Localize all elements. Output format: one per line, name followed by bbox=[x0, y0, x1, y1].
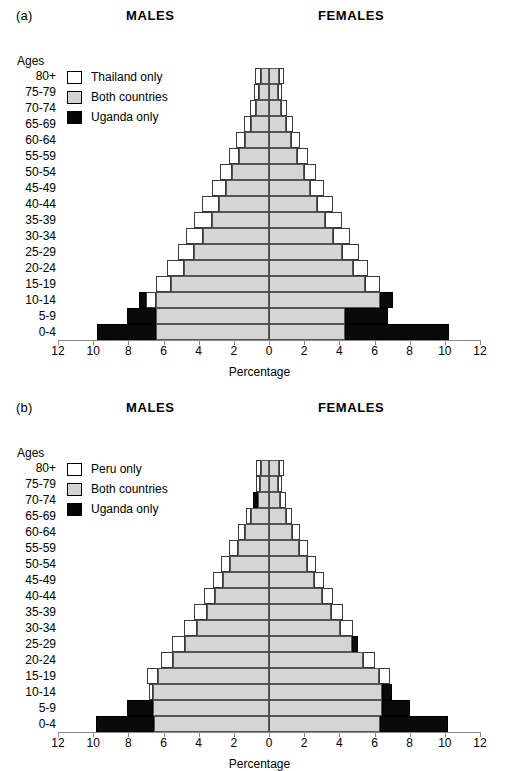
bar-female-both-countries bbox=[269, 148, 297, 164]
age-label: 45-49 bbox=[0, 180, 64, 196]
bar-male-country-only bbox=[244, 116, 251, 132]
age-label: 65-69 bbox=[0, 116, 64, 132]
age-label: 50-54 bbox=[0, 164, 64, 180]
bar-female-both-countries bbox=[269, 100, 281, 116]
bar-female-both-countries bbox=[269, 244, 342, 260]
bar-female-country-only bbox=[292, 524, 300, 540]
bar-female-uganda-only bbox=[380, 716, 449, 732]
bar-male-country-only bbox=[186, 228, 203, 244]
bar-female-both-countries bbox=[269, 460, 279, 476]
panel-b-tick-labels: 12108642024681012 bbox=[58, 736, 480, 752]
age-label: 60-64 bbox=[0, 132, 64, 148]
bar-male-both-countries bbox=[230, 556, 269, 572]
age-label: 5-9 bbox=[0, 700, 64, 716]
bar-female-country-only bbox=[280, 492, 285, 508]
bar-female-both-countries bbox=[269, 476, 278, 492]
bar-male-uganda-only bbox=[97, 324, 156, 340]
x-tick-label: 10 bbox=[438, 736, 451, 750]
panel-a-age-labels: 80+75-7970-7465-6960-6455-5950-5445-4940… bbox=[0, 68, 64, 340]
bar-female-country-only bbox=[307, 556, 317, 572]
x-tick-label: 8 bbox=[125, 736, 132, 750]
bar-female-country-only bbox=[286, 116, 293, 132]
bar-male-both-countries bbox=[256, 100, 269, 116]
bar-female-both-countries bbox=[269, 620, 340, 636]
bar-female-country-only bbox=[342, 244, 359, 260]
bar-male-both-countries bbox=[203, 228, 269, 244]
bar-female-country-only bbox=[325, 212, 342, 228]
bar-male-both-countries bbox=[258, 492, 269, 508]
bar-female-country-only bbox=[291, 132, 300, 148]
age-label: 20-24 bbox=[0, 652, 64, 668]
x-tick-label: 8 bbox=[125, 344, 132, 358]
age-label: 60-64 bbox=[0, 524, 64, 540]
panel-a-tick-labels: 12108642024681012 bbox=[58, 344, 480, 360]
bar-male-country-only bbox=[236, 132, 246, 148]
bar-male-country-only bbox=[229, 148, 240, 164]
panel-b-xaxis-title: Percentage bbox=[0, 757, 519, 771]
panel-b-center-axis bbox=[269, 460, 270, 733]
x-tick-label: 12 bbox=[51, 736, 64, 750]
bar-female-both-countries bbox=[269, 292, 380, 308]
bar-male-both-countries bbox=[185, 636, 269, 652]
bar-male-both-countries bbox=[215, 588, 269, 604]
panel-a-females-heading: FEMALES bbox=[318, 8, 384, 23]
bar-male-both-countries bbox=[158, 668, 269, 684]
panel-b-age-labels: 80+75-7970-7465-6960-6455-5950-5445-4940… bbox=[0, 460, 64, 732]
x-tick-label: 8 bbox=[406, 344, 413, 358]
bar-male-both-countries bbox=[223, 572, 269, 588]
age-label: 55-59 bbox=[0, 148, 64, 164]
bar-female-uganda-only bbox=[345, 324, 449, 340]
bar-female-uganda-only bbox=[382, 684, 392, 700]
x-tick-label: 0 bbox=[266, 344, 273, 358]
age-label: 0-4 bbox=[0, 716, 64, 732]
bar-male-uganda-only bbox=[127, 700, 152, 716]
age-label: 30-34 bbox=[0, 620, 64, 636]
bar-male-country-only bbox=[229, 540, 238, 556]
bar-female-country-only bbox=[279, 460, 284, 476]
x-tick-label: 4 bbox=[195, 344, 202, 358]
bar-male-both-countries bbox=[232, 164, 269, 180]
x-tick-label: 2 bbox=[301, 736, 308, 750]
bar-male-both-countries bbox=[154, 716, 269, 732]
panel-b-plot bbox=[58, 460, 480, 732]
bar-male-country-only bbox=[147, 668, 158, 684]
age-label: 50-54 bbox=[0, 556, 64, 572]
bar-female-both-countries bbox=[269, 716, 380, 732]
bar-female-both-countries bbox=[269, 212, 325, 228]
bar-male-country-only bbox=[221, 556, 231, 572]
bar-male-both-countries bbox=[259, 84, 269, 100]
x-tick-label: 6 bbox=[160, 736, 167, 750]
bar-male-both-countries bbox=[156, 292, 269, 308]
age-label: 25-29 bbox=[0, 636, 64, 652]
bar-male-both-countries bbox=[251, 508, 269, 524]
bar-female-both-countries bbox=[269, 636, 352, 652]
age-label: 10-14 bbox=[0, 684, 64, 700]
x-tick-label: 2 bbox=[230, 344, 237, 358]
bar-male-uganda-only bbox=[127, 308, 155, 324]
bar-female-country-only bbox=[278, 476, 282, 492]
x-tick-label: 10 bbox=[438, 344, 451, 358]
bar-female-both-countries bbox=[269, 228, 333, 244]
x-tick-label: 6 bbox=[371, 736, 378, 750]
panel-a-xaxis-title: Percentage bbox=[0, 365, 519, 379]
bar-male-country-only bbox=[146, 292, 156, 308]
bar-female-both-countries bbox=[269, 196, 317, 212]
bar-female-both-countries bbox=[269, 540, 299, 556]
age-label: 0-4 bbox=[0, 324, 64, 340]
bar-male-country-only bbox=[204, 588, 215, 604]
x-tick-label: 2 bbox=[301, 344, 308, 358]
panel-b: (b) MALES FEMALES Ages 80+75-7970-7465-6… bbox=[0, 392, 519, 771]
bar-female-both-countries bbox=[269, 604, 331, 620]
bar-female-country-only bbox=[331, 604, 343, 620]
age-label: 75-79 bbox=[0, 84, 64, 100]
bar-female-both-countries bbox=[269, 684, 382, 700]
bar-female-country-only bbox=[363, 652, 375, 668]
bar-female-both-countries bbox=[269, 492, 280, 508]
age-label: 40-44 bbox=[0, 196, 64, 212]
population-pyramid-figure: (a) MALES FEMALES Ages 80+75-7970-7465-6… bbox=[0, 0, 519, 771]
age-label: 35-39 bbox=[0, 212, 64, 228]
panel-a-males-heading: MALES bbox=[126, 8, 175, 23]
bar-male-both-countries bbox=[219, 196, 269, 212]
bar-female-uganda-only bbox=[345, 308, 387, 324]
age-label: 15-19 bbox=[0, 276, 64, 292]
